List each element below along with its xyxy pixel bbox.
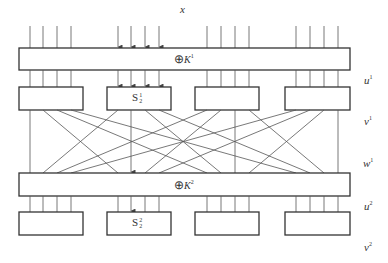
sbox-row-1 (19, 87, 350, 110)
label-w1: w1 (363, 157, 373, 169)
xor-icon: ⊕ (174, 52, 184, 66)
u2-wires (30, 196, 338, 212)
u1-wires (30, 70, 338, 87)
sbox-label-1-2: S12 (132, 92, 142, 104)
xor-icon: ⊕ (174, 178, 184, 192)
key-label-1: ⊕K1 (174, 53, 194, 65)
sbox-1-4 (285, 87, 350, 110)
label-v1: v1 (364, 115, 372, 127)
sbox-2-4 (285, 212, 350, 235)
key-label-2: ⊕K2 (174, 179, 194, 191)
spn-diagram (0, 0, 388, 263)
sbox-label-2-2: S22 (132, 217, 142, 229)
sbox-2-1 (19, 212, 83, 235)
sbox-row-2 (19, 212, 350, 235)
input-wires (30, 26, 338, 48)
sbox-2-3 (195, 212, 259, 235)
label-v2: v2 (364, 241, 372, 253)
label-u2: u2 (364, 200, 373, 212)
sbox-1-1 (19, 87, 83, 110)
label-u1: u1 (364, 74, 373, 86)
sbox-1-3 (195, 87, 259, 110)
permutation-wires (30, 110, 338, 173)
label-x: x (180, 4, 185, 15)
